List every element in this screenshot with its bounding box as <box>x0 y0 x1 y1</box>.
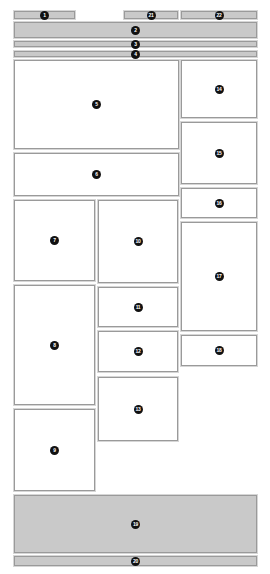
region-15-sidebar: 15 <box>181 122 257 184</box>
region-20-bottom-bar: 20 <box>14 556 257 566</box>
region-21-top-bar: 21 <box>124 11 178 19</box>
region-marker: 12 <box>134 347 143 356</box>
region-1-top-left-bar: 1 <box>14 11 75 19</box>
region-marker: 6 <box>92 170 101 179</box>
region-16-sidebar: 16 <box>181 188 257 218</box>
region-marker: 5 <box>92 100 101 109</box>
region-marker: 4 <box>131 50 140 59</box>
region-11: 11 <box>98 287 178 327</box>
region-2-header: 2 <box>14 22 257 38</box>
region-17-sidebar: 17 <box>181 222 257 331</box>
region-4-sub-nav-bar: 4 <box>14 51 257 57</box>
region-marker: 10 <box>134 237 143 246</box>
region-marker: 2 <box>131 26 140 35</box>
region-marker: 19 <box>131 520 140 529</box>
region-8: 8 <box>14 285 95 405</box>
region-5-hero: 5 <box>14 60 179 149</box>
region-marker: 8 <box>50 341 59 350</box>
region-marker: 17 <box>215 272 224 281</box>
region-3-nav-bar: 3 <box>14 41 257 47</box>
region-19-footer: 19 <box>14 495 257 553</box>
region-marker: 3 <box>131 40 140 49</box>
region-marker: 9 <box>50 446 59 455</box>
region-10: 10 <box>98 200 178 283</box>
region-13: 13 <box>98 377 178 441</box>
region-marker: 14 <box>215 85 224 94</box>
region-14-sidebar: 14 <box>181 60 257 118</box>
region-marker: 20 <box>131 557 140 566</box>
region-18-sidebar: 18 <box>181 335 257 366</box>
region-6-banner: 6 <box>14 153 179 196</box>
region-marker: 22 <box>215 11 224 20</box>
region-7: 7 <box>14 200 95 281</box>
region-marker: 7 <box>50 236 59 245</box>
region-9: 9 <box>14 409 95 491</box>
region-marker: 1 <box>40 11 49 20</box>
region-marker: 16 <box>215 199 224 208</box>
region-marker: 11 <box>134 303 143 312</box>
region-12: 12 <box>98 331 178 372</box>
region-22-top-right-bar: 22 <box>181 11 257 19</box>
region-marker: 18 <box>215 346 224 355</box>
region-marker: 21 <box>147 11 156 20</box>
region-marker: 13 <box>134 405 143 414</box>
region-marker: 15 <box>215 149 224 158</box>
